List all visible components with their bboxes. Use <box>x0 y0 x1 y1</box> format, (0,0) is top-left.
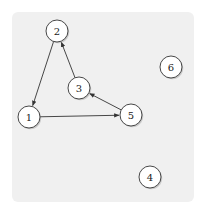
graph-canvas: 123456 <box>0 0 203 211</box>
edge-2-to-1 <box>33 41 54 105</box>
node-label: 6 <box>168 62 174 73</box>
node-label: 5 <box>128 110 134 121</box>
node-2: 2 <box>46 20 69 43</box>
node-label: 3 <box>76 83 82 94</box>
node-label: 2 <box>54 26 60 37</box>
node-5: 5 <box>120 104 143 127</box>
node-1: 1 <box>18 106 41 129</box>
node-label: 4 <box>147 172 153 183</box>
nodes-group: 123456 <box>18 20 183 189</box>
edge-3-to-2 <box>61 42 75 78</box>
node-3: 3 <box>68 77 91 100</box>
edge-5-to-3 <box>90 94 122 110</box>
node-label: 1 <box>26 112 32 123</box>
edge-1-to-5 <box>40 115 119 117</box>
node-6: 6 <box>160 56 183 79</box>
node-4: 4 <box>139 166 162 189</box>
